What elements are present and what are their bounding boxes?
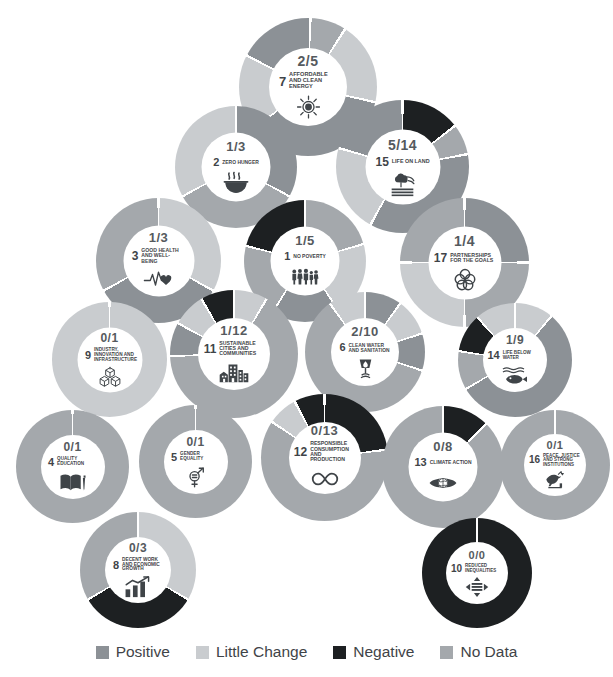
goal-name-5: GENDER EQUALITY: [180, 452, 220, 461]
goal-number-3: 3: [132, 249, 139, 261]
legend-item-positive[interactable]: Positive: [96, 643, 170, 661]
goal-donut-14[interactable]: 1/914LIFE BELOW WATER: [458, 303, 572, 417]
goal-number-1: 1: [284, 251, 290, 262]
goal-donut-16[interactable]: 0/116PEACE, JUSTICE AND STRONG INSTITUTI…: [500, 410, 610, 520]
goal-donut-11[interactable]: 1/1211SUSTAINABLE CITIES AND COMMUNITIES: [170, 290, 298, 418]
goal-number-4: 4: [48, 457, 54, 468]
goal-title-row-6: 6CLEAN WATER AND SANITATION: [335, 342, 395, 353]
goal-name-13: CLIMATE ACTION: [430, 459, 472, 464]
infinity-icon: [310, 467, 340, 491]
goal-title-row-11: 11SUSTAINABLE CITIES AND COMMUNITIES: [203, 341, 266, 357]
goal-center-12: 0/1312RESPONSIBLE CONSUMPTION AND PRODUC…: [289, 422, 361, 494]
goal-number-14: 14: [487, 350, 499, 361]
legend-label-positive: Positive: [116, 643, 170, 661]
goal-name-15: LIFE ON LAND: [392, 158, 430, 164]
goal-name-7: AFFORDABLE AND CLEAN ENERGY: [289, 72, 337, 89]
goal-center-17: 1/417PARTNERSHIPS FOR THE GOALS: [428, 226, 501, 299]
goal-center-9: 0/19INDUSTRY, INNOVATION AND INFRASTRUCT…: [77, 327, 142, 392]
legend-label-no_data: No Data: [460, 643, 517, 661]
goal-number-16: 16: [529, 455, 540, 465]
goal-fraction-10: 0/0: [469, 550, 486, 561]
goal-number-11: 11: [204, 343, 217, 355]
goal-name-12: RESPONSIBLE CONSUMPTION AND PRODUCTION: [310, 441, 355, 462]
legend-item-no_data[interactable]: No Data: [440, 643, 517, 661]
chart-icon: [124, 576, 152, 598]
goal-number-10: 10: [451, 564, 462, 574]
goal-number-2: 2: [213, 157, 219, 168]
goal-number-7: 7: [279, 75, 286, 88]
goal-title-row-13: 13CLIMATE ACTION: [413, 457, 474, 468]
goal-title-row-7: 7AFFORDABLE AND CLEAN ENERGY: [274, 72, 343, 89]
goal-center-4: 0/14QUALITY EDUCATION: [41, 435, 105, 499]
goal-fraction-14: 1/9: [506, 334, 524, 346]
city-icon: [219, 360, 249, 384]
goal-center-13: 0/813CLIMATE ACTION: [409, 433, 478, 502]
eye-earth-icon: [429, 472, 458, 495]
goal-name-1: NO POVERTY: [293, 253, 325, 258]
goal-donut-9[interactable]: 0/19INDUSTRY, INNOVATION AND INFRASTRUCT…: [52, 302, 167, 417]
boxes-icon: [96, 366, 123, 387]
goal-number-17: 17: [434, 252, 447, 264]
legend-item-negative[interactable]: Negative: [333, 643, 414, 661]
goal-title-row-12: 12RESPONSIBLE CONSUMPTION AND PRODUCTION: [293, 441, 356, 462]
goal-donut-12[interactable]: 0/1312RESPONSIBLE CONSUMPTION AND PRODUC…: [261, 394, 388, 521]
goal-fraction-13: 0/8: [433, 440, 453, 453]
goal-title-row-3: 3GOOD HEALTH AND WELL-BEING: [128, 248, 190, 264]
goal-fraction-16: 0/1: [547, 440, 564, 451]
goal-number-13: 13: [414, 457, 426, 468]
goal-title-row-15: 15LIFE ON LAND: [370, 155, 436, 167]
legend-swatch-negative: [333, 646, 346, 659]
goal-title-row-14: 14LIFE BELOW WATER: [487, 350, 543, 361]
goal-number-8: 8: [113, 560, 119, 571]
goal-fraction-11: 1/12: [220, 324, 247, 337]
goal-center-6: 2/106CLEAN WATER AND SANITATION: [331, 318, 399, 386]
goal-name-2: ZERO HUNGER: [222, 159, 259, 164]
book-icon: [59, 472, 86, 493]
goal-donut-10[interactable]: 0/010REDUCED INEQUALITIES: [422, 518, 532, 628]
legend-label-negative: Negative: [353, 643, 414, 661]
goal-name-10: REDUCED INEQUALITIES: [465, 564, 503, 573]
goal-center-1: 1/51NO POVERTY: [271, 227, 340, 296]
goal-title-row-4: 4QUALITY EDUCATION: [45, 457, 101, 468]
goal-donut-13[interactable]: 0/813CLIMATE ACTION: [382, 406, 504, 528]
goal-name-8: DECENT WORK AND ECONOMIC GROWTH: [122, 558, 163, 573]
goal-fraction-2: 1/3: [226, 140, 246, 153]
goal-title-row-5: 5GENDER EQUALITY: [168, 452, 224, 463]
circles-icon: [449, 268, 480, 292]
family-icon: [291, 266, 320, 289]
goal-donut-5[interactable]: 0/15GENDER EQUALITY: [139, 405, 252, 518]
goal-title-row-2: 2ZERO HUNGER: [206, 157, 267, 168]
goal-number-9: 9: [85, 350, 91, 361]
goal-title-row-16: 16PEACE, JUSTICE AND STRONG INSTITUTIONS: [528, 454, 583, 468]
goal-name-9: INDUSTRY, INNOVATION AND INFRASTRUCTURE: [94, 348, 134, 362]
goal-number-12: 12: [294, 446, 307, 458]
goal-name-3: GOOD HEALTH AND WELL-BEING: [141, 248, 185, 264]
goal-center-3: 1/33GOOD HEALTH AND WELL-BEING: [123, 225, 194, 296]
goal-fraction-1: 1/5: [295, 234, 315, 247]
goal-title-row-8: 8DECENT WORK AND ECONOMIC GROWTH: [109, 558, 167, 573]
goal-center-10: 0/010REDUCED INEQUALITIES: [446, 542, 508, 604]
goal-fraction-9: 0/1: [100, 332, 118, 344]
goal-center-2: 1/32ZERO HUNGER: [202, 133, 271, 202]
goal-name-4: QUALITY EDUCATION: [57, 457, 97, 466]
goal-number-6: 6: [339, 342, 345, 353]
goal-fraction-17: 1/4: [454, 234, 475, 248]
goal-name-11: SUSTAINABLE CITIES AND COMMUNITIES: [219, 341, 264, 357]
legend-item-little_change[interactable]: Little Change: [196, 643, 307, 661]
goal-number-15: 15: [375, 155, 388, 167]
sun-icon: [292, 94, 325, 120]
goal-fraction-8: 0/3: [129, 542, 147, 554]
goal-fraction-6: 2/10: [351, 325, 378, 338]
goal-center-11: 1/1211SUSTAINABLE CITIES AND COMMUNITIES: [198, 318, 270, 390]
legend-swatch-little_change: [196, 646, 209, 659]
tree-icon: [387, 171, 419, 196]
goal-donut-4[interactable]: 0/14QUALITY EDUCATION: [16, 410, 129, 523]
legend-swatch-no_data: [440, 646, 453, 659]
goal-fraction-15: 5/14: [388, 137, 417, 151]
goal-name-16: PEACE, JUSTICE AND STRONG INSTITUTIONS: [543, 454, 581, 468]
goal-donut-8[interactable]: 0/38DECENT WORK AND ECONOMIC GROWTH: [80, 512, 196, 628]
goal-title-row-1: 1NO POVERTY: [275, 251, 336, 262]
goal-fraction-4: 0/1: [63, 441, 81, 453]
legend-label-little_change: Little Change: [216, 643, 307, 661]
bowl-icon: [222, 172, 251, 195]
